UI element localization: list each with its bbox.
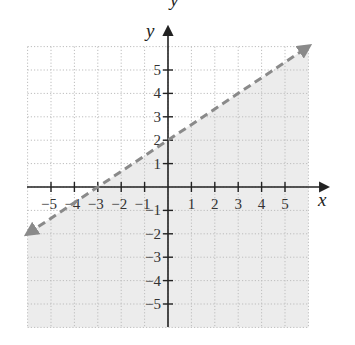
y-tick-label: −2 <box>145 226 161 242</box>
x-axis-label: x <box>317 189 327 210</box>
x-tick-label: 3 <box>234 196 242 212</box>
y-tick-label: 1 <box>154 156 162 172</box>
y-tick-label: −3 <box>145 249 161 265</box>
x-tick-label: 4 <box>258 196 266 212</box>
y-axis-label: y <box>144 20 155 41</box>
x-tick-label: −2 <box>111 196 127 212</box>
y-tick-label: 5 <box>154 62 162 78</box>
x-tick-label: 2 <box>211 196 219 212</box>
y-tick-label: 3 <box>154 109 162 125</box>
inequality-graph: y −5−4−3−2−112345 −5−4−3−2−112345 x y <box>0 0 355 345</box>
x-tick-label: 1 <box>188 196 196 212</box>
x-tick-label: −3 <box>88 196 104 212</box>
cropped-top-label: y <box>168 0 179 10</box>
x-tick-label: 5 <box>281 196 289 212</box>
y-tick-label: −4 <box>145 273 161 289</box>
y-tick-label: −5 <box>145 296 161 312</box>
y-tick-label: −1 <box>145 202 161 218</box>
y-tick-label: 4 <box>154 85 162 101</box>
x-tick-label: −5 <box>41 196 57 212</box>
